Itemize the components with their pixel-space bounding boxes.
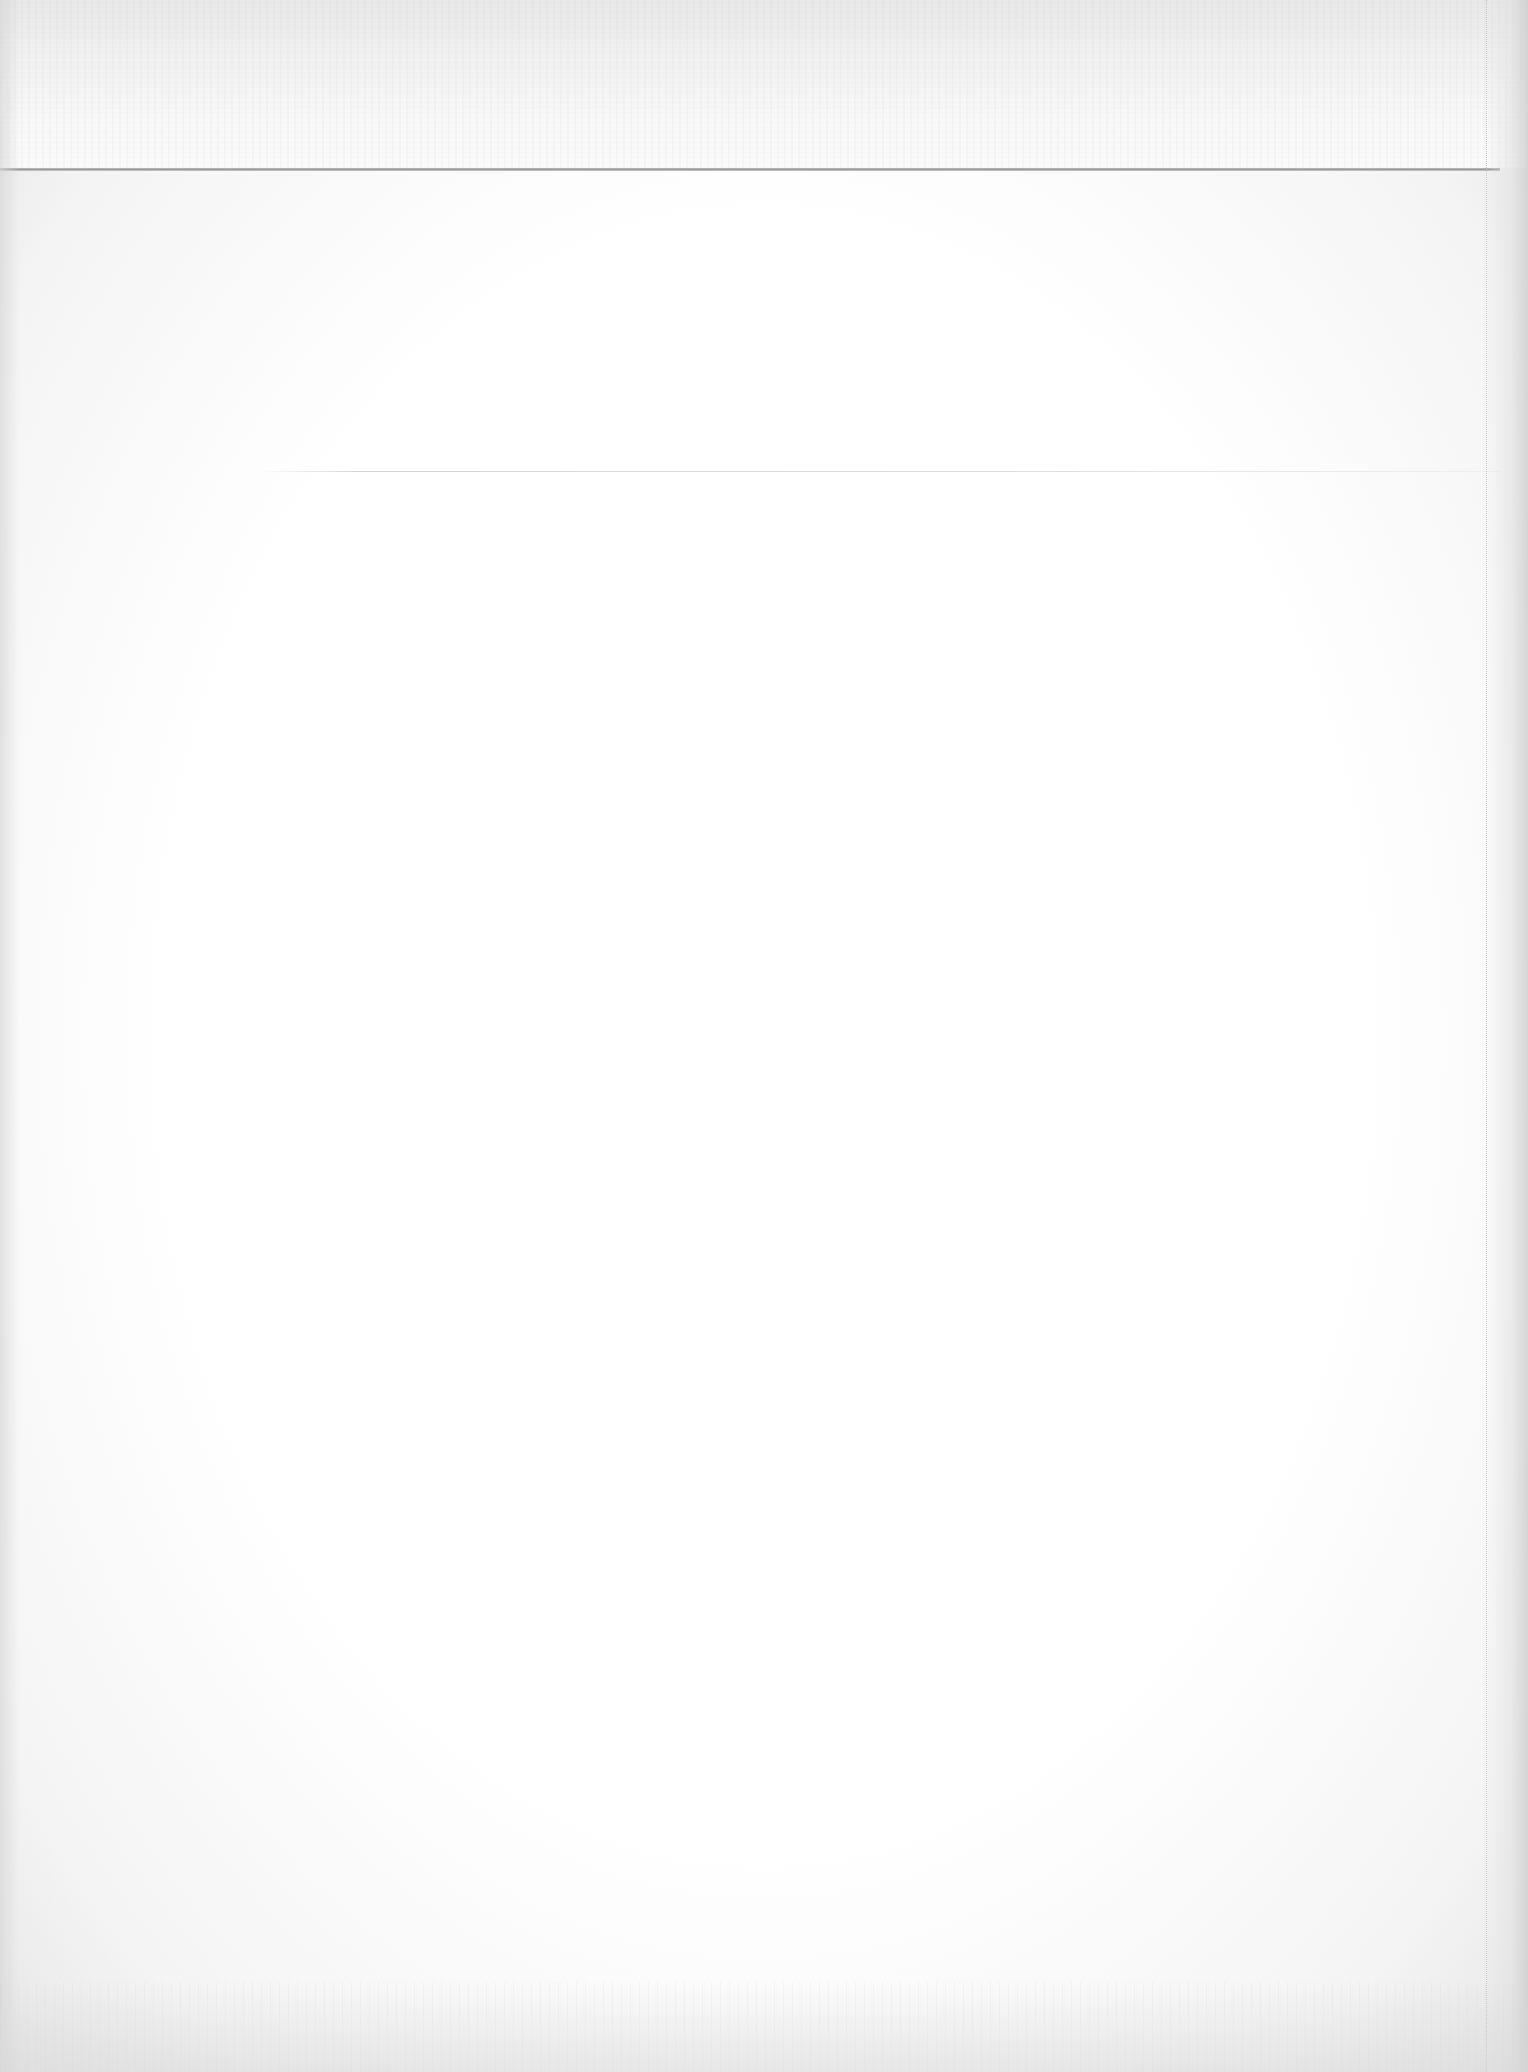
right-page-edge — [1486, 0, 1528, 2072]
scanned-page — [0, 0, 1528, 2072]
left-page-edge — [0, 0, 20, 2072]
header-rule — [0, 168, 1500, 171]
footer-band — [0, 1982, 1528, 2072]
page-body — [0, 172, 1486, 1972]
fold-line — [1486, 0, 1487, 2072]
header-band — [0, 0, 1528, 168]
